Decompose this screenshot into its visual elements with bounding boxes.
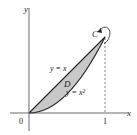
origin-label: 0 [19,117,23,126]
region-label: D [63,79,71,89]
diagram-canvas: y x 0 1 y = x y = x² D C [0,0,137,135]
curve-label-y-equals-x-squared: y = x² [65,88,86,97]
y-axis-label: y [23,4,28,14]
curve-y-equals-x [29,37,105,113]
curve-label-y-equals-x: y = x [49,64,67,73]
x-tick-label-1: 1 [103,117,107,126]
x-axis-label: x [126,108,131,118]
boundary-curve-label: C [92,29,99,39]
